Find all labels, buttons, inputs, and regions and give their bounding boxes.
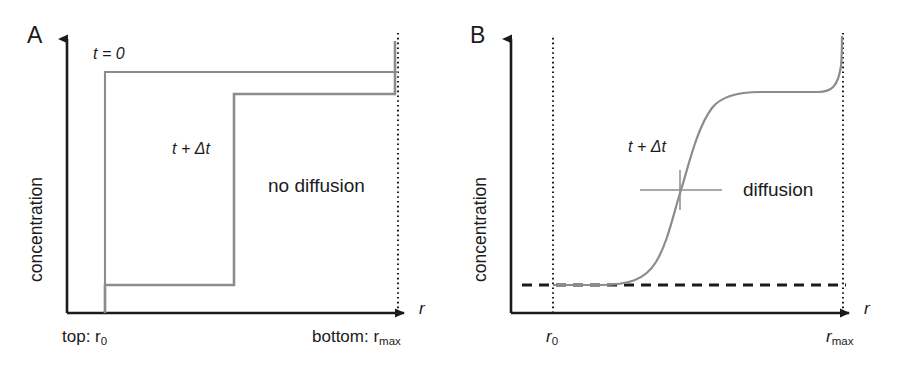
panel-a-t0-label: t = 0	[93, 46, 125, 62]
panel-b-letter: B	[470, 24, 486, 47]
panel-b-region-label: diffusion	[743, 180, 813, 199]
panel-a-graphics	[67, 33, 404, 313]
panel-b-x-axis-label: r	[864, 300, 870, 317]
panel-a-tick-r0-sub: 0	[101, 335, 107, 347]
figure-container: A concentration r t = 0 t + Δt no diffus…	[0, 0, 901, 374]
panel-a-tdt-label-text: t + Δt	[172, 140, 210, 157]
panel-a-tick-r0-prefix: top: r	[62, 327, 101, 346]
panel-a-tick-rmax-prefix: bottom: r	[312, 327, 379, 346]
panel-a-tick-r0: top: r0	[62, 328, 107, 345]
panel-a-tick-rmax: bottom: rmax	[312, 328, 401, 345]
panel-b-tick-r0-prefix: r	[546, 327, 552, 346]
panel-b-tick-rmax: rmax	[826, 328, 853, 345]
panel-b-y-axis-label: concentration	[472, 177, 490, 282]
panel-a-y-axis-label: concentration	[28, 177, 46, 282]
panel-b-tdt-label: t + Δt	[628, 139, 666, 155]
panel-b-tick-r0-sub: 0	[552, 335, 558, 347]
panel-b-tick-rmax-prefix: r	[826, 327, 832, 346]
panel-a-tick-rmax-sub: max	[379, 335, 401, 347]
panel-b-curve-tdt	[553, 36, 842, 285]
panel-a-letter: A	[27, 24, 43, 47]
panel-b-tick-rmax-sub: max	[832, 335, 854, 347]
panel-b-tdt-label-text: t + Δt	[628, 138, 666, 155]
panel-a-x-axis-label: r	[419, 300, 425, 317]
panel-a-t0-label-text: t = 0	[93, 45, 125, 62]
panel-b-tick-r0: r0	[546, 328, 558, 345]
panel-a-region-label: no diffusion	[268, 176, 365, 195]
panel-b-graphics	[511, 33, 849, 313]
panel-a-tdt-label: t + Δt	[172, 141, 210, 157]
